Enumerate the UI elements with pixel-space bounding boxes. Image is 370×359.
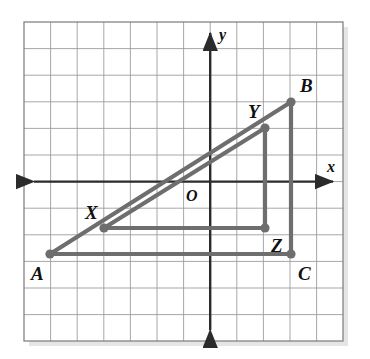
point-a	[45, 249, 54, 258]
label-point-x: X	[84, 202, 99, 223]
point-x	[99, 223, 108, 232]
point-z	[260, 223, 269, 232]
label-point-b: B	[299, 75, 313, 96]
origin-label: O	[186, 187, 198, 204]
label-point-a: A	[30, 263, 44, 284]
point-b	[286, 97, 295, 106]
x-axis-label: x	[326, 158, 335, 175]
point-y	[260, 123, 269, 132]
label-point-c: C	[298, 263, 311, 284]
geometry-figure: A B C X Y Z x y O	[0, 0, 370, 359]
label-point-z: Z	[270, 235, 283, 256]
y-axis-label: y	[217, 26, 227, 44]
point-c	[286, 249, 295, 258]
coordinate-plane-svg: A B C X Y Z x y O	[0, 0, 370, 359]
